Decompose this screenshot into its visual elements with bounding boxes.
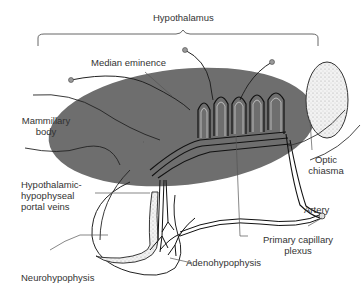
label-primary-capillary-plexus: Primary capillary plexus: [254, 234, 342, 256]
label-neurohypophysis: Neurohypophysis: [21, 272, 94, 283]
label-artery: Artery: [304, 204, 329, 215]
optic-chiasma: [306, 62, 348, 138]
neurohypophysis-stalk: [96, 192, 158, 263]
label-median-eminence: Median eminence: [91, 57, 166, 68]
label-adenohypophysis: Adenohypophysis: [186, 257, 261, 268]
hypothalamus-region: [43, 55, 322, 198]
label-hypothalamus: Hypothalamus: [153, 12, 214, 23]
label-mammillary-body: Mammillary body: [18, 115, 74, 137]
label-portal-veins: Hypothalamic- hypophyseal portal veins: [21, 179, 82, 212]
hypothalamus-bracket: [38, 30, 318, 46]
label-optic-chiasma: Optic chiasma: [306, 154, 346, 176]
